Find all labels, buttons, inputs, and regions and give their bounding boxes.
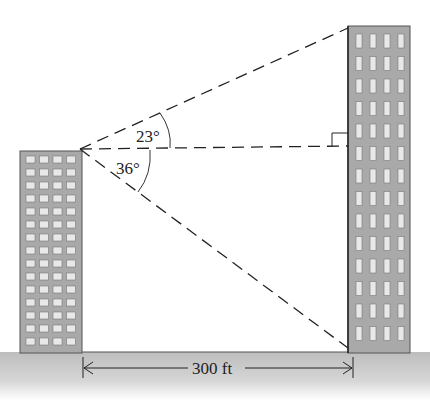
window bbox=[384, 102, 390, 116]
window bbox=[26, 247, 35, 254]
window bbox=[384, 169, 390, 183]
window bbox=[53, 247, 62, 254]
window bbox=[26, 312, 35, 319]
window bbox=[67, 286, 76, 293]
window bbox=[384, 124, 390, 138]
window bbox=[384, 34, 390, 48]
window bbox=[26, 338, 35, 345]
window bbox=[26, 234, 35, 241]
window bbox=[40, 286, 49, 293]
window bbox=[26, 299, 35, 306]
window bbox=[40, 299, 49, 306]
window bbox=[398, 102, 404, 116]
right-angle-marker bbox=[332, 133, 348, 146]
window bbox=[67, 234, 76, 241]
window bbox=[53, 221, 62, 228]
window bbox=[398, 79, 404, 93]
window bbox=[26, 208, 35, 215]
window bbox=[398, 327, 404, 341]
window bbox=[370, 327, 376, 341]
window bbox=[40, 273, 49, 280]
window bbox=[398, 192, 404, 206]
window bbox=[26, 169, 35, 176]
depression-arc bbox=[138, 150, 150, 192]
window bbox=[40, 260, 49, 267]
window bbox=[53, 338, 62, 345]
window bbox=[26, 260, 35, 267]
window bbox=[356, 327, 362, 341]
window bbox=[67, 299, 76, 306]
depression-angle-label: 36° bbox=[116, 159, 140, 178]
window bbox=[398, 304, 404, 318]
window bbox=[384, 259, 390, 273]
elevation-line bbox=[80, 28, 348, 149]
window bbox=[398, 259, 404, 273]
window bbox=[40, 325, 49, 332]
window bbox=[384, 282, 390, 296]
window bbox=[356, 147, 362, 161]
window bbox=[53, 260, 62, 267]
window bbox=[370, 124, 376, 138]
window bbox=[53, 208, 62, 215]
window bbox=[26, 325, 35, 332]
window bbox=[40, 169, 49, 176]
window bbox=[398, 57, 404, 71]
window bbox=[384, 304, 390, 318]
window bbox=[40, 182, 49, 189]
window bbox=[67, 169, 76, 176]
window bbox=[67, 221, 76, 228]
window bbox=[356, 259, 362, 273]
window bbox=[370, 259, 376, 273]
horizontal-line bbox=[80, 146, 348, 149]
window bbox=[398, 34, 404, 48]
window bbox=[40, 156, 49, 163]
window bbox=[40, 234, 49, 241]
window bbox=[398, 282, 404, 296]
window bbox=[356, 79, 362, 93]
window bbox=[370, 57, 376, 71]
window bbox=[370, 237, 376, 251]
window bbox=[67, 182, 76, 189]
window bbox=[384, 57, 390, 71]
window bbox=[26, 221, 35, 228]
window bbox=[384, 192, 390, 206]
depression-line bbox=[80, 149, 348, 348]
window bbox=[356, 169, 362, 183]
window bbox=[370, 214, 376, 228]
window bbox=[370, 304, 376, 318]
window bbox=[398, 214, 404, 228]
window bbox=[53, 299, 62, 306]
window bbox=[384, 237, 390, 251]
window bbox=[398, 147, 404, 161]
window bbox=[26, 156, 35, 163]
window bbox=[398, 124, 404, 138]
window bbox=[356, 304, 362, 318]
window bbox=[40, 221, 49, 228]
window bbox=[53, 182, 62, 189]
window bbox=[370, 147, 376, 161]
window bbox=[40, 247, 49, 254]
window bbox=[67, 338, 76, 345]
window bbox=[53, 325, 62, 332]
right-building bbox=[348, 26, 410, 353]
window bbox=[356, 102, 362, 116]
window bbox=[67, 247, 76, 254]
window bbox=[384, 327, 390, 341]
window bbox=[53, 169, 62, 176]
window bbox=[53, 312, 62, 319]
window bbox=[384, 79, 390, 93]
trig-diagram: 23° 36° 300 ft bbox=[0, 0, 430, 403]
window bbox=[356, 57, 362, 71]
window bbox=[26, 182, 35, 189]
window bbox=[53, 273, 62, 280]
window bbox=[67, 260, 76, 267]
window bbox=[53, 234, 62, 241]
window bbox=[67, 325, 76, 332]
sight-lines bbox=[80, 28, 348, 348]
window bbox=[40, 195, 49, 202]
window bbox=[356, 34, 362, 48]
window bbox=[67, 273, 76, 280]
window bbox=[67, 312, 76, 319]
window bbox=[26, 195, 35, 202]
window bbox=[40, 208, 49, 215]
